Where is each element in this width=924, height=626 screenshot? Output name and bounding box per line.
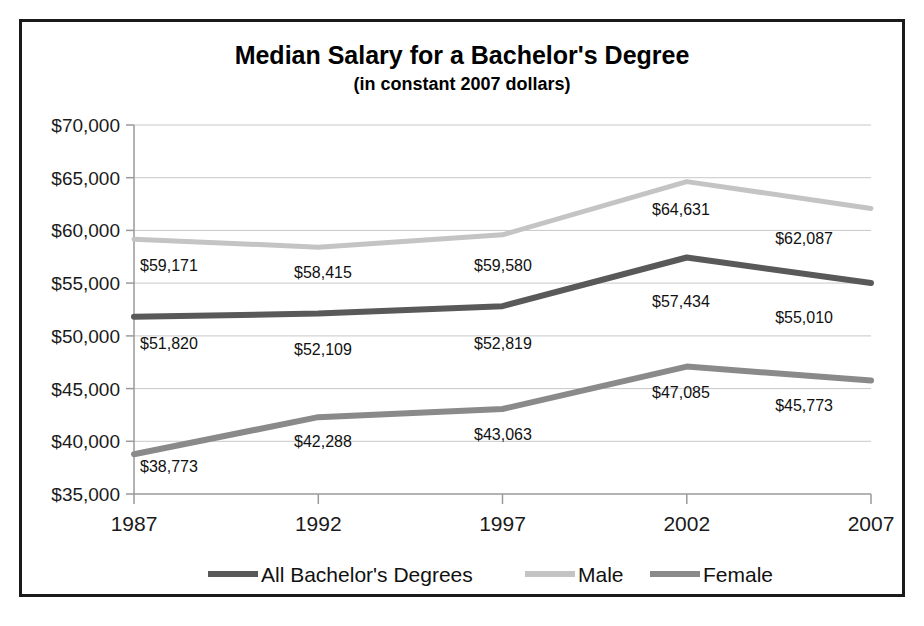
gridlines — [134, 125, 871, 441]
data-label-all-2002: $57,434 — [652, 293, 710, 310]
y-tick-marks — [126, 125, 134, 494]
x-tick-marks — [134, 494, 871, 504]
data-label-male-2002: $64,631 — [652, 201, 710, 218]
y-tick-label-40000: $40,000 — [51, 431, 120, 452]
data-label-male-2007: $62,087 — [775, 230, 833, 247]
y-axis-labels: $70,000 $65,000 $60,000 $55,000 $50,000 … — [51, 115, 120, 505]
data-labels-male: $59,171 $58,415 $59,580 $64,631 $62,087 — [140, 201, 833, 281]
series-line-male — [134, 182, 871, 248]
chart-legend: All Bachelor's Degrees Male Female — [208, 563, 773, 586]
x-tick-label-1997: 1997 — [479, 512, 526, 535]
x-tick-label-2007: 2007 — [848, 512, 895, 535]
data-label-female-1992: $42,288 — [294, 433, 352, 450]
y-tick-label-60000: $60,000 — [51, 220, 120, 241]
y-tick-label-45000: $45,000 — [51, 379, 120, 400]
y-tick-label-65000: $65,000 — [51, 168, 120, 189]
data-label-male-1987: $59,171 — [140, 257, 198, 274]
legend-label-male[interactable]: Male — [578, 563, 624, 586]
y-tick-label-35000: $35,000 — [51, 484, 120, 505]
data-label-female-2007: $45,773 — [775, 397, 833, 414]
x-tick-label-1987: 1987 — [111, 512, 158, 535]
chart-subtitle: (in constant 2007 dollars) — [353, 74, 570, 94]
data-label-all-2007: $55,010 — [775, 309, 833, 326]
data-label-all-1987: $51,820 — [140, 335, 198, 352]
data-label-male-1992: $58,415 — [294, 264, 352, 281]
x-tick-label-1992: 1992 — [295, 512, 342, 535]
y-tick-label-70000: $70,000 — [51, 115, 120, 136]
y-tick-label-55000: $55,000 — [51, 273, 120, 294]
x-tick-label-2002: 2002 — [663, 512, 710, 535]
data-label-female-1997: $43,063 — [474, 426, 532, 443]
legend-label-all-bachelors[interactable]: All Bachelor's Degrees — [261, 563, 473, 586]
chart-title: Median Salary for a Bachelor's Degree — [235, 41, 690, 69]
data-label-all-1992: $52,109 — [294, 341, 352, 358]
chart-container: Median Salary for a Bachelor's Degree (i… — [19, 19, 905, 597]
data-label-all-1997: $52,819 — [474, 335, 532, 352]
y-tick-label-50000: $50,000 — [51, 326, 120, 347]
data-label-female-1987: $38,773 — [140, 458, 198, 475]
data-labels-all-bachelors: $51,820 $52,109 $52,819 $57,434 $55,010 — [140, 293, 833, 358]
x-axis-labels: 1987 1992 1997 2002 2007 — [111, 512, 895, 535]
legend-label-female[interactable]: Female — [703, 563, 773, 586]
data-label-female-2002: $47,085 — [652, 384, 710, 401]
data-label-male-1997: $59,580 — [474, 257, 532, 274]
